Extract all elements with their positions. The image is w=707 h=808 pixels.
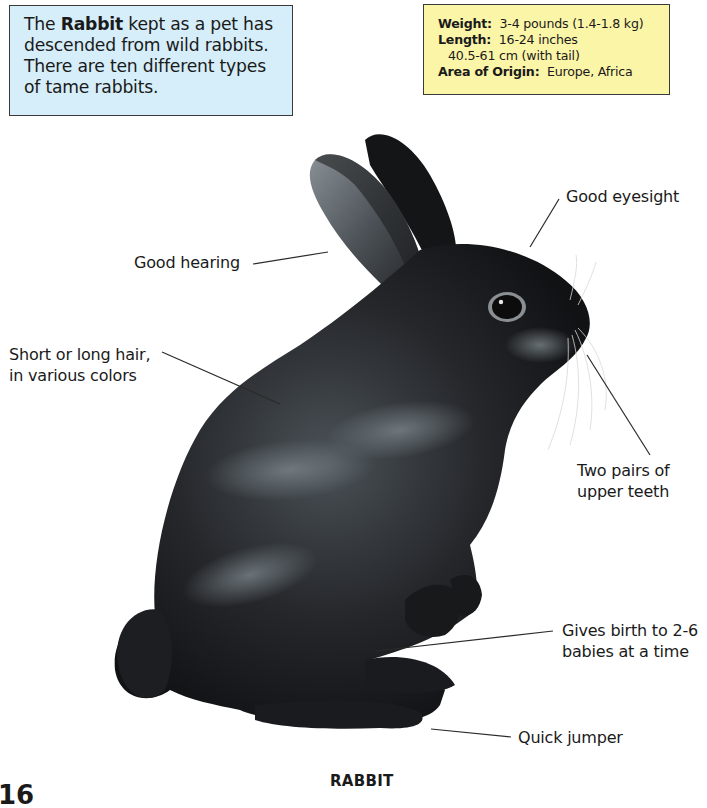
callout-good-eyesight: Good eyesight <box>566 186 679 207</box>
callout-birth-line1: Gives birth to 2-6 <box>562 620 698 641</box>
callout-good-hearing: Good hearing <box>134 252 240 273</box>
callout-teeth-line2: upper teeth <box>577 481 669 502</box>
callout-birth-line2: babies at a time <box>562 641 689 662</box>
callout-hair-line2: in various colors <box>9 365 137 386</box>
callout-teeth-line1: Two pairs of <box>577 460 670 481</box>
page-number: 16 <box>0 782 34 808</box>
leader-line-hearing <box>253 252 328 264</box>
rabbit-eye <box>488 292 526 322</box>
callout-hair-line1: Short or long hair, <box>9 344 150 365</box>
figure-caption: RABBIT <box>330 772 394 790</box>
leader-line-eyesight <box>530 199 559 247</box>
callout-quick-jumper: Quick jumper <box>518 727 623 748</box>
leader-line-teeth <box>587 355 650 455</box>
leader-line-jumper <box>431 729 511 737</box>
